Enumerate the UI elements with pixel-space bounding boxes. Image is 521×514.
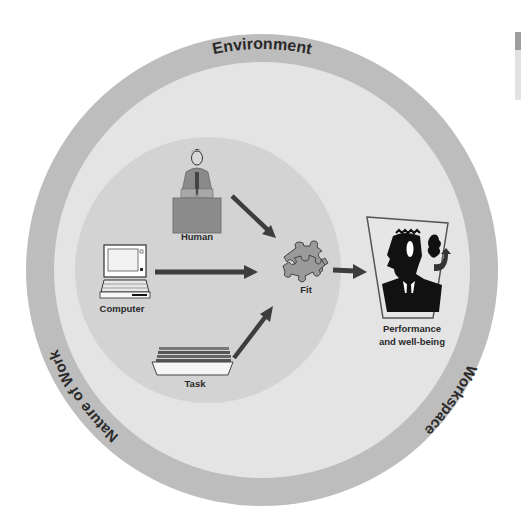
- task-label: Task: [185, 378, 207, 389]
- fit-label: Fit: [300, 284, 312, 295]
- side-scroll-tab: [515, 32, 521, 100]
- performance-label-line2: and well-being: [379, 336, 445, 347]
- ergonomics-fit-diagram: Environment Nature of Work Workspace Hum…: [0, 0, 521, 514]
- human-label: Human: [181, 231, 213, 242]
- performance-label-line1: Performance: [383, 323, 441, 334]
- laptop-icon: [100, 245, 150, 298]
- paper-tray-icon: [152, 347, 233, 375]
- computer-label: Computer: [100, 303, 145, 314]
